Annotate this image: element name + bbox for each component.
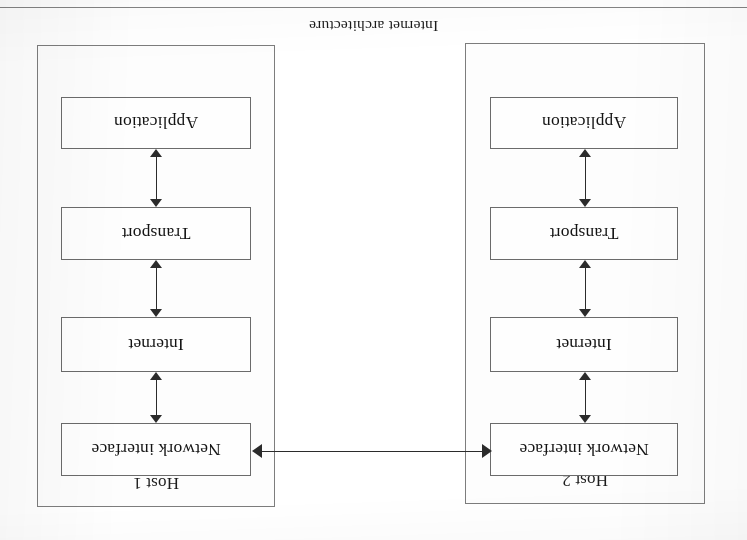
layer-box-transport-right: Transport	[61, 207, 251, 260]
host-container-right: Host 1 Network interface Internet Transp…	[37, 45, 275, 507]
arrowhead-down-icon	[150, 260, 162, 268]
layer-box-application-right: Application	[61, 97, 251, 149]
layer-box-network-interface-right: Network interface	[61, 423, 251, 476]
figure-caption: Internet architecture	[0, 17, 747, 35]
internet-architecture-figure: Host 2 Network interface Internet Transp…	[0, 0, 747, 540]
arrow-stem	[156, 378, 157, 417]
layer-box-application-left: Application	[490, 97, 678, 149]
arrowhead-down-icon	[579, 372, 591, 380]
connector-network-interface-internet-left	[578, 372, 592, 423]
connector-transport-application-right	[149, 149, 163, 207]
host-container-left: Host 2 Network interface Internet Transp…	[465, 43, 705, 504]
host-label-right: Host 1	[38, 473, 274, 493]
layer-box-transport-left: Transport	[490, 207, 678, 260]
arrow-stem	[585, 155, 586, 201]
layer-box-network-interface-left: Network interface	[490, 423, 678, 476]
arrowhead-down-icon	[150, 149, 162, 157]
arrow-stem	[260, 451, 484, 452]
network-link-connector	[252, 444, 492, 458]
arrow-stem	[156, 266, 157, 311]
connector-internet-transport-right	[149, 260, 163, 317]
connector-network-interface-internet-right	[149, 372, 163, 423]
arrow-stem	[585, 378, 586, 417]
layer-box-internet-left: Internet	[490, 317, 678, 372]
arrowhead-down-icon	[150, 372, 162, 380]
arrowhead-down-icon	[579, 260, 591, 268]
connector-transport-application-left	[578, 149, 592, 207]
connector-internet-transport-left	[578, 260, 592, 317]
layer-box-internet-right: Internet	[61, 317, 251, 372]
arrow-stem	[156, 155, 157, 201]
arrowhead-right-icon	[252, 444, 262, 458]
arrowhead-down-icon	[579, 149, 591, 157]
arrow-stem	[585, 266, 586, 311]
